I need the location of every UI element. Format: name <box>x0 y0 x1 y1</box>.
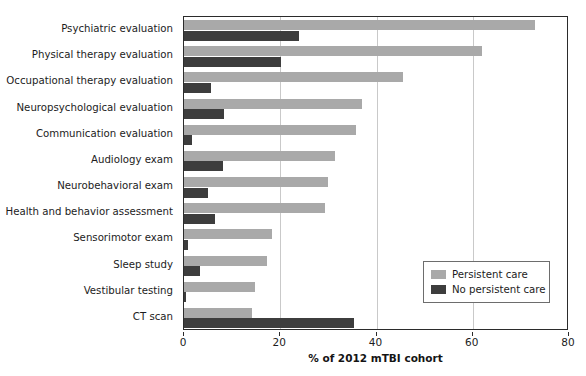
bar <box>184 240 188 250</box>
bar <box>184 72 403 82</box>
bar-group <box>184 148 567 174</box>
bar <box>184 135 192 145</box>
category-label: Health and behavior assessment <box>0 206 173 217</box>
chart-legend: Persistent care No persistent care <box>423 261 550 303</box>
bar <box>184 282 255 292</box>
category-label: Neuropsychological evaluation <box>0 102 173 113</box>
x-tick-label: 40 <box>356 336 396 348</box>
legend-swatch-persistent-care <box>431 270 446 279</box>
category-label: Psychiatric evaluation <box>0 23 173 34</box>
category-label: Physical therapy evaluation <box>0 49 173 60</box>
bar <box>184 308 252 318</box>
bar <box>184 83 211 93</box>
bar-group <box>184 43 567 69</box>
bar <box>184 99 362 109</box>
category-label: Audiology exam <box>0 154 173 165</box>
x-axis-title: % of 2012 mTBI cohort <box>183 352 568 364</box>
bar-group <box>184 226 567 252</box>
bar <box>184 151 335 161</box>
bar <box>184 214 215 224</box>
legend-item-persistent-care: Persistent care <box>431 267 542 282</box>
bar-group <box>184 200 567 226</box>
category-label: Sleep study <box>0 259 173 270</box>
x-tick-label: 20 <box>259 336 299 348</box>
bar <box>184 57 281 67</box>
bar <box>184 188 208 198</box>
category-label: Occupational therapy evaluation <box>0 75 173 86</box>
bar-group <box>184 96 567 122</box>
bar <box>184 177 328 187</box>
category-label: Neurobehavioral exam <box>0 180 173 191</box>
bar <box>184 125 356 135</box>
bar <box>184 20 535 30</box>
x-tick-label: 0 <box>163 336 203 348</box>
bar <box>184 266 200 276</box>
legend-item-no-persistent-care: No persistent care <box>431 282 542 297</box>
bar <box>184 318 354 328</box>
legend-swatch-no-persistent-care <box>431 285 446 294</box>
bar-group <box>184 69 567 95</box>
bar <box>184 292 186 302</box>
category-label: CT scan <box>0 311 173 322</box>
bar <box>184 229 272 239</box>
x-tick-label: 60 <box>452 336 492 348</box>
category-axis-labels: Psychiatric evaluationPhysical therapy e… <box>0 16 178 330</box>
category-label: Sensorimotor exam <box>0 232 173 243</box>
bar-group <box>184 174 567 200</box>
bar-group <box>184 122 567 148</box>
bar <box>184 109 224 119</box>
category-label: Communication evaluation <box>0 128 173 139</box>
legend-label-no-persistent-care: No persistent care <box>452 284 546 295</box>
bar <box>184 46 482 56</box>
bar <box>184 256 267 266</box>
legend-label-persistent-care: Persistent care <box>452 269 528 280</box>
category-label: Vestibular testing <box>0 285 173 296</box>
bar <box>184 203 325 213</box>
bar-chart-figure: Psychiatric evaluationPhysical therapy e… <box>0 0 586 376</box>
bar <box>184 161 223 171</box>
bar-group <box>184 17 567 43</box>
x-axis-ticks: 020406080 <box>0 332 586 348</box>
bar <box>184 31 299 41</box>
bar-group <box>184 305 567 331</box>
x-tick-label: 80 <box>548 336 586 348</box>
